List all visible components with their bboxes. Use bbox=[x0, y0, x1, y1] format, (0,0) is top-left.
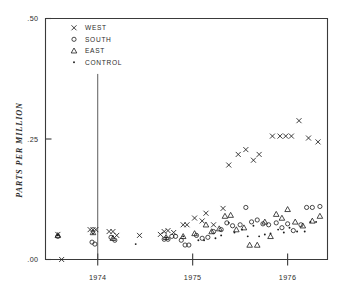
marker-east bbox=[279, 215, 285, 220]
marker-east bbox=[317, 213, 323, 218]
x-tick-label: 1976 bbox=[279, 273, 297, 282]
y-tick-label: .50 bbox=[27, 14, 38, 23]
marker-south bbox=[230, 224, 234, 228]
marker-south bbox=[280, 226, 284, 230]
marker-west bbox=[72, 25, 77, 30]
marker-west bbox=[306, 136, 311, 141]
series-west bbox=[55, 118, 320, 262]
scatter-plot: .00.25.50 197419751976 PARTS PER MILLION… bbox=[0, 0, 347, 299]
marker-east bbox=[247, 242, 253, 247]
marker-west bbox=[165, 228, 170, 233]
marker-west bbox=[184, 222, 189, 227]
legend-label: CONTROL bbox=[85, 59, 122, 66]
marker-control bbox=[309, 221, 311, 223]
marker-south bbox=[310, 205, 314, 209]
marker-control bbox=[241, 229, 243, 231]
marker-south bbox=[249, 220, 253, 224]
marker-east bbox=[285, 207, 291, 212]
marker-south bbox=[238, 223, 242, 227]
marker-east bbox=[273, 211, 279, 216]
legend-label: SOUTH bbox=[85, 36, 112, 43]
marker-west bbox=[236, 152, 241, 157]
marker-south bbox=[274, 221, 278, 225]
marker-west bbox=[243, 147, 248, 152]
marker-control bbox=[315, 221, 317, 223]
marker-control bbox=[247, 235, 249, 237]
marker-west bbox=[114, 233, 119, 238]
y-axis-label: PARTS PER MILLION bbox=[15, 102, 24, 198]
marker-control bbox=[112, 235, 114, 237]
marker-control bbox=[135, 243, 137, 245]
marker-control bbox=[73, 61, 75, 63]
marker-east bbox=[234, 227, 240, 232]
marker-control bbox=[220, 234, 222, 236]
series-south bbox=[56, 204, 322, 247]
marker-west bbox=[257, 152, 262, 157]
marker-control bbox=[296, 231, 298, 233]
marker-east bbox=[254, 242, 260, 247]
legend-item-south: SOUTH bbox=[72, 36, 112, 43]
marker-west bbox=[316, 139, 321, 144]
marker-control bbox=[197, 239, 199, 241]
marker-west bbox=[200, 218, 205, 223]
marker-control bbox=[270, 233, 272, 235]
marker-east bbox=[222, 213, 228, 218]
marker-control bbox=[289, 227, 291, 229]
marker-control bbox=[57, 234, 59, 236]
marker-west bbox=[221, 206, 226, 211]
marker-control bbox=[203, 239, 205, 241]
marker-west bbox=[226, 163, 231, 168]
marker-control bbox=[215, 237, 217, 239]
marker-south bbox=[72, 37, 76, 41]
y-axis-ticks: .00.25.50 bbox=[27, 14, 51, 264]
x-axis-ticks: 197419751976 bbox=[89, 254, 296, 282]
marker-west bbox=[158, 232, 163, 237]
marker-south bbox=[244, 205, 248, 209]
legend-label: WEST bbox=[85, 24, 107, 31]
chart-page: .00.25.50 197419751976 PARTS PER MILLION… bbox=[0, 0, 347, 299]
marker-control bbox=[283, 232, 285, 234]
marker-west bbox=[203, 211, 208, 216]
marker-west bbox=[162, 229, 167, 234]
marker-control bbox=[182, 235, 184, 237]
marker-control bbox=[252, 225, 254, 227]
marker-south bbox=[206, 235, 210, 239]
marker-east bbox=[292, 219, 298, 224]
marker-control bbox=[92, 233, 94, 235]
legend-item-west: WEST bbox=[72, 24, 107, 31]
legend-item-east: EAST bbox=[71, 47, 105, 54]
marker-west bbox=[251, 158, 256, 163]
legend-item-control: CONTROL bbox=[73, 59, 122, 66]
x-tick-label: 1975 bbox=[184, 273, 202, 282]
legend-label: EAST bbox=[85, 47, 105, 54]
marker-west bbox=[297, 118, 302, 123]
marker-control bbox=[233, 232, 235, 234]
marker-east bbox=[71, 48, 77, 53]
marker-west bbox=[289, 134, 294, 139]
x-tick-label: 1974 bbox=[89, 273, 107, 282]
data-points-layer bbox=[55, 118, 323, 262]
marker-west bbox=[270, 134, 275, 139]
marker-west bbox=[283, 134, 288, 139]
y-tick-label: .00 bbox=[27, 255, 38, 264]
marker-south bbox=[318, 204, 322, 208]
marker-west bbox=[137, 233, 142, 238]
marker-east bbox=[228, 212, 234, 217]
marker-control bbox=[258, 235, 260, 237]
y-tick-label: .25 bbox=[27, 135, 38, 144]
marker-control bbox=[264, 233, 266, 235]
marker-control bbox=[165, 236, 167, 238]
marker-west bbox=[211, 222, 216, 227]
marker-control bbox=[277, 229, 279, 231]
marker-west bbox=[192, 216, 197, 221]
marker-control bbox=[228, 222, 230, 224]
marker-west bbox=[278, 134, 283, 139]
marker-south bbox=[286, 222, 290, 226]
marker-south bbox=[305, 205, 309, 209]
marker-south bbox=[291, 228, 295, 232]
legend: WESTSOUTHEASTCONTROL bbox=[71, 24, 122, 66]
marker-control bbox=[304, 231, 306, 233]
marker-south bbox=[255, 218, 259, 222]
